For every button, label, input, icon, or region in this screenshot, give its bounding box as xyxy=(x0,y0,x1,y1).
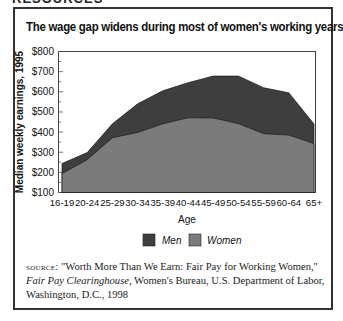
svg-text:Median weekly earnings, 1995: Median weekly earnings, 1995 xyxy=(14,50,25,193)
legend-swatch-women xyxy=(189,234,201,246)
y-tick-label: $200 xyxy=(32,167,55,178)
legend: MenWomen xyxy=(143,234,242,246)
y-tick-label: $500 xyxy=(32,106,55,117)
x-tick-label: 20-24 xyxy=(75,197,100,208)
x-tick-label: 35-39 xyxy=(151,197,176,208)
y-tick-label: $400 xyxy=(32,127,55,138)
x-tick-label: 30-34 xyxy=(125,197,150,208)
y-tick-label: $600 xyxy=(32,86,55,97)
x-tick-label: 16-19 xyxy=(50,197,75,208)
x-tick-label: 65+ xyxy=(306,197,323,208)
legend-label-women: Women xyxy=(207,235,242,246)
source-line2: , Women's Bureau, U.S. Department of Lab… xyxy=(129,275,325,286)
legend-swatch-men xyxy=(143,234,155,246)
y-tick-label: $700 xyxy=(32,66,55,77)
source-publication: Fair Pay Clearinghouse xyxy=(26,275,129,286)
source-label: source: xyxy=(26,262,58,272)
legend-label-men: Men xyxy=(162,235,182,246)
source-line1: "Worth More Than We Earn: Fair Pay for W… xyxy=(61,261,318,272)
x-tick-label: 60-64 xyxy=(277,197,302,208)
x-axis-label: Age xyxy=(178,214,196,225)
x-tick-label: 25-29 xyxy=(100,197,125,208)
y-tick-label: $300 xyxy=(32,147,55,158)
x-axis-tick-labels: 16-1920-2425-2930-3435-3940-4445-4950-54… xyxy=(50,197,323,208)
x-tick-label: 55-59 xyxy=(251,197,276,208)
source-line3: Washington, D.C., 1998 xyxy=(26,289,128,300)
y-axis-tick-labels: $100$200$300$400$500$600$700$800 xyxy=(32,46,55,198)
y-axis-label: Median weekly earnings, 1995 xyxy=(14,50,25,193)
y-tick-label: $800 xyxy=(32,46,55,57)
source-citation: source: "Worth More Than We Earn: Fair P… xyxy=(26,260,326,302)
x-tick-label: 45-49 xyxy=(201,197,226,208)
x-tick-label: 50-54 xyxy=(226,197,251,208)
x-tick-label: 40-44 xyxy=(176,197,201,208)
